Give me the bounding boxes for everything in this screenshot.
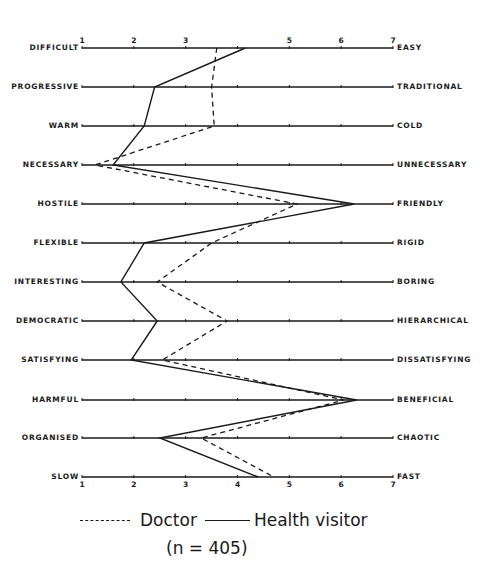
chart-legend: Doctor Health visitor [80, 510, 368, 530]
left-label: WARM [49, 121, 79, 130]
right-label: HIERARCHICAL [397, 316, 469, 325]
scale-lines [82, 46, 393, 478]
solid-line-swatch [205, 520, 250, 521]
top-tick-label: 3 [183, 36, 188, 45]
legend-health-visitor-label: Health visitor [254, 510, 368, 530]
bottom-tick-label: 1 [79, 480, 84, 489]
right-label: FAST [397, 472, 421, 481]
top-tick-label: 1 [79, 36, 84, 45]
left-label: HOSTILE [38, 199, 79, 208]
legend-doctor-label: Doctor [140, 510, 197, 530]
tick-labels: 1122334556677 [79, 36, 395, 489]
dashed-line-swatch [80, 520, 130, 521]
right-label: DISSATISFYING [397, 355, 471, 364]
left-adjective-labels: DIFFICULTPROGRESSIVEWARMNECESSARYHOSTILE… [11, 43, 79, 481]
bottom-tick-label: 3 [183, 480, 188, 489]
sample-size-label: (n = 405) [166, 538, 248, 558]
bottom-tick-label: 5 [287, 480, 292, 489]
right-adjective-labels: EASYTRADITIONALCOLDUNNECESSARYFRIENDLYRI… [397, 43, 471, 481]
top-tick-label: 6 [339, 36, 344, 45]
left-label: HARMFUL [32, 395, 79, 404]
left-label: PROGRESSIVE [11, 82, 79, 91]
bottom-tick-label: 6 [339, 480, 344, 489]
right-label: UNNECESSARY [397, 160, 467, 169]
right-label: COLD [397, 121, 423, 130]
right-label: BENEFICIAL [397, 395, 454, 404]
top-tick-label: 5 [287, 36, 292, 45]
bottom-tick-label: 2 [131, 480, 136, 489]
left-label: SLOW [51, 472, 79, 481]
right-label: BORING [397, 277, 435, 286]
bottom-tick-label: 7 [390, 480, 395, 489]
left-label: DIFFICULT [29, 43, 79, 52]
right-label: RIGID [397, 238, 425, 247]
semantic-differential-chart: 1122334556677 DIFFICULTPROGRESSIVEWARMNE… [0, 0, 480, 576]
health-visitor-series-line [113, 48, 357, 477]
left-label: INTERESTING [14, 277, 79, 286]
left-label: ORGANISED [22, 433, 79, 442]
top-tick-label: 2 [131, 36, 136, 45]
right-label: TRADITIONAL [397, 82, 463, 91]
left-label: DEMOCRATIC [16, 316, 79, 325]
top-tick-label: 7 [390, 36, 395, 45]
left-label: FLEXIBLE [33, 238, 79, 247]
bottom-tick-label: 4 [235, 480, 240, 489]
right-label: FRIENDLY [397, 199, 444, 208]
right-label: EASY [397, 43, 422, 52]
left-label: NECESSARY [23, 160, 79, 169]
right-label: CHAOTIC [397, 433, 440, 442]
left-label: SATISFYING [21, 355, 79, 364]
